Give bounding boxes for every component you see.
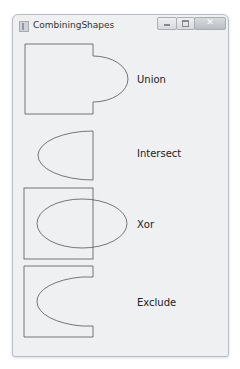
- xor-label: Xor: [137, 219, 154, 230]
- geometry-canvas: [0, 0, 240, 369]
- intersect-shape: [38, 131, 93, 180]
- exclude-label: Exclude: [137, 297, 176, 308]
- exclude-shape: [24, 266, 93, 337]
- union-label: Union: [137, 74, 166, 85]
- xor-ellipse: [37, 199, 127, 248]
- union-shape: [25, 44, 128, 114]
- intersect-label: Intersect: [137, 148, 181, 159]
